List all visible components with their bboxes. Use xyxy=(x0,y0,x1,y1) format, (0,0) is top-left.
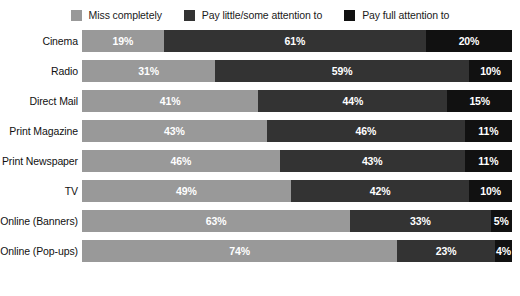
category-label: Direct Mail xyxy=(0,90,78,112)
legend-swatch-pay-full-icon xyxy=(344,10,355,21)
bar-segment[interactable]: 19% xyxy=(82,30,164,52)
chart-row: Cinema19%61%20% xyxy=(0,30,520,52)
category-label: Radio xyxy=(0,60,78,82)
bar-segment[interactable]: 11% xyxy=(465,150,512,172)
bar-segment[interactable]: 10% xyxy=(469,60,512,82)
category-label: Online (Pop-ups) xyxy=(0,240,78,262)
bar-segment-value: 74% xyxy=(229,240,250,262)
bar-segment-value: 41% xyxy=(160,90,181,112)
category-label: Print Newspaper xyxy=(0,150,78,172)
stacked-bar-chart: Miss completely Pay little/some attentio… xyxy=(0,0,520,296)
stacked-bar: 31%59%10% xyxy=(82,60,512,82)
chart-row: Radio31%59%10% xyxy=(0,60,520,82)
legend-item-pay-full[interactable]: Pay full attention to xyxy=(344,10,449,21)
bar-segment-value: 5% xyxy=(494,210,509,232)
bar-segment-value: 43% xyxy=(362,150,383,172)
bar-segment-value: 23% xyxy=(436,240,457,262)
chart-row: Direct Mail41%44%15% xyxy=(0,90,520,112)
bar-segment[interactable]: 5% xyxy=(491,210,512,232)
bar-segment-value: 15% xyxy=(469,90,490,112)
stacked-bar: 41%44%15% xyxy=(82,90,512,112)
bar-segment[interactable]: 15% xyxy=(447,90,512,112)
bar-segment[interactable]: 44% xyxy=(258,90,447,112)
category-label: Print Magazine xyxy=(0,120,78,142)
bar-segment-value: 61% xyxy=(284,30,305,52)
bar-segment[interactable]: 46% xyxy=(82,150,280,172)
bar-segment[interactable]: 63% xyxy=(82,210,350,232)
bar-segment-value: 46% xyxy=(171,150,192,172)
legend-label-miss-completely: Miss completely xyxy=(89,10,162,21)
chart-row: Online (Pop-ups)74%23%4% xyxy=(0,240,520,262)
category-label: TV xyxy=(0,180,78,202)
bar-segment[interactable]: 74% xyxy=(82,240,397,262)
category-label: Cinema xyxy=(0,30,78,52)
bar-segment[interactable]: 59% xyxy=(215,60,469,82)
stacked-bar: 74%23%4% xyxy=(82,240,512,262)
chart-legend: Miss completely Pay little/some attentio… xyxy=(0,6,520,24)
bar-segment-value: 4% xyxy=(496,240,511,262)
bar-segment-value: 10% xyxy=(480,60,501,82)
legend-item-pay-little-some[interactable]: Pay little/some attention to xyxy=(184,10,322,21)
bar-segment[interactable]: 10% xyxy=(469,180,512,202)
bar-segment-value: 46% xyxy=(355,120,376,142)
category-label: Online (Banners) xyxy=(0,210,78,232)
bar-segment[interactable]: 23% xyxy=(397,240,495,262)
bar-segment-value: 63% xyxy=(206,210,227,232)
bar-segment-value: 19% xyxy=(112,30,133,52)
bar-segment[interactable]: 41% xyxy=(82,90,258,112)
chart-row: Print Newspaper46%43%11% xyxy=(0,150,520,172)
legend-swatch-pay-little-some-icon xyxy=(184,10,195,21)
bar-segment-value: 44% xyxy=(343,90,364,112)
bar-segment[interactable]: 20% xyxy=(426,30,512,52)
legend-item-miss-completely[interactable]: Miss completely xyxy=(71,10,162,21)
chart-row: Print Magazine43%46%11% xyxy=(0,120,520,142)
stacked-bar: 49%42%10% xyxy=(82,180,512,202)
chart-row: TV49%42%10% xyxy=(0,180,520,202)
bar-segment[interactable]: 11% xyxy=(465,120,512,142)
stacked-bar: 46%43%11% xyxy=(82,150,512,172)
bar-segment-value: 31% xyxy=(138,60,159,82)
legend-label-pay-full: Pay full attention to xyxy=(362,10,449,21)
bar-segment-value: 10% xyxy=(480,180,501,202)
bar-segment-value: 11% xyxy=(478,120,498,142)
bar-segment[interactable]: 33% xyxy=(350,210,490,232)
bar-segment[interactable]: 46% xyxy=(267,120,465,142)
bar-segment-value: 43% xyxy=(164,120,185,142)
bar-segment-value: 33% xyxy=(410,210,431,232)
bar-segment-value: 11% xyxy=(478,150,498,172)
stacked-bar: 19%61%20% xyxy=(82,30,512,52)
bar-segment-value: 59% xyxy=(332,60,353,82)
bar-segment[interactable]: 49% xyxy=(82,180,291,202)
stacked-bar: 43%46%11% xyxy=(82,120,512,142)
legend-label-pay-little-some: Pay little/some attention to xyxy=(202,10,322,21)
stacked-bar: 63%33%5% xyxy=(82,210,512,232)
bar-segment[interactable]: 43% xyxy=(82,120,267,142)
bar-segment-value: 49% xyxy=(176,180,197,202)
bar-segment[interactable]: 43% xyxy=(280,150,465,172)
bar-segment[interactable]: 4% xyxy=(495,240,512,262)
chart-plot-area: Cinema19%61%20%Radio31%59%10%Direct Mail… xyxy=(0,30,520,270)
bar-segment-value: 20% xyxy=(459,30,480,52)
bar-segment-value: 42% xyxy=(370,180,391,202)
bar-segment[interactable]: 31% xyxy=(82,60,215,82)
chart-row: Online (Banners)63%33%5% xyxy=(0,210,520,232)
legend-swatch-miss-completely-icon xyxy=(71,10,82,21)
bar-segment[interactable]: 42% xyxy=(291,180,470,202)
bar-segment[interactable]: 61% xyxy=(164,30,426,52)
